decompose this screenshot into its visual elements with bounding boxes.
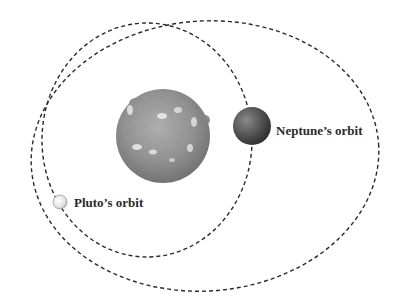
- diagram-canvas: [0, 0, 403, 306]
- pluto-orbit-label: Pluto’s orbit: [74, 196, 143, 209]
- neptune-orbit-label: Neptune’s orbit: [276, 124, 363, 137]
- sun-icon: [116, 89, 210, 183]
- pluto-planet-icon: [53, 195, 67, 209]
- neptune-planet-icon: [233, 107, 271, 145]
- orbit-diagram: Neptune’s orbit Pluto’s orbit: [0, 0, 403, 306]
